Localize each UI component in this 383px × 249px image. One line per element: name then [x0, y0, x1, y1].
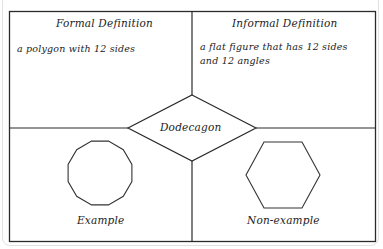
- non-example-title: Non-example: [247, 214, 320, 226]
- informal-definition-title: Informal Definition: [232, 17, 338, 29]
- formal-definition-title: Formal Definition: [56, 17, 153, 29]
- example-title: Example: [77, 214, 125, 226]
- center-term: Dodecagon: [160, 121, 221, 133]
- hexagon-shape: [246, 142, 320, 208]
- informal-definition-text: a flat figure that has 12 sides and 12 a…: [200, 40, 350, 68]
- dodecagon-shape: [68, 141, 132, 205]
- formal-definition-text: a polygon with 12 sides: [17, 42, 187, 56]
